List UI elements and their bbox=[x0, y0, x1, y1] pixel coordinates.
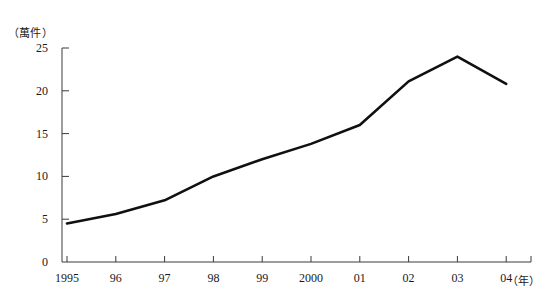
line-chart: （萬件） （年） 0510152025 19959697989920000102… bbox=[0, 0, 550, 304]
axis-lines bbox=[62, 48, 531, 262]
x-axis-ticks bbox=[67, 256, 531, 262]
data-series-line bbox=[67, 57, 506, 224]
y-axis-ticks bbox=[62, 48, 69, 219]
plot-area bbox=[0, 0, 550, 304]
